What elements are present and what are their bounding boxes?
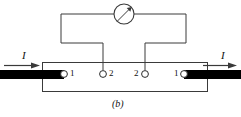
- current-label-left: I: [22, 50, 26, 61]
- current-arrow-right: [203, 63, 237, 69]
- right-electrode-bar: [184, 70, 241, 79]
- terminal-label-right-outer: 1: [174, 69, 179, 78]
- circuit-diagram-figure: I I 1 2 2 1 (b): [0, 0, 241, 117]
- current-label-right: I: [221, 50, 225, 61]
- terminal-label-left-outer: 1: [70, 69, 75, 78]
- left-lead-wire: [61, 14, 114, 70]
- terminal-left-inner[interactable]: [100, 71, 107, 78]
- right-lead-wire: [134, 14, 186, 70]
- terminal-right-outer[interactable]: [181, 71, 188, 78]
- current-arrow-left: [4, 63, 40, 69]
- figure-caption: (b): [112, 99, 124, 109]
- terminal-left-outer[interactable]: [61, 71, 68, 78]
- terminal-label-right-inner: 2: [134, 69, 139, 78]
- galvanometer-icon: [114, 4, 134, 24]
- terminal-label-left-inner: 2: [109, 69, 114, 78]
- terminal-right-inner[interactable]: [142, 71, 149, 78]
- left-electrode-bar: [0, 70, 64, 79]
